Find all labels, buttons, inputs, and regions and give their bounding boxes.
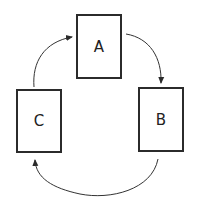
node-c-label: C xyxy=(34,112,44,130)
node-b-label: B xyxy=(156,111,166,129)
edge-b-to-c xyxy=(35,159,158,196)
edge-c-to-a xyxy=(34,37,72,87)
node-a-label: A xyxy=(94,38,104,56)
node-b: B xyxy=(138,87,184,152)
node-c: C xyxy=(16,89,62,153)
edge-a-to-b xyxy=(126,34,161,83)
node-a: A xyxy=(76,14,122,79)
